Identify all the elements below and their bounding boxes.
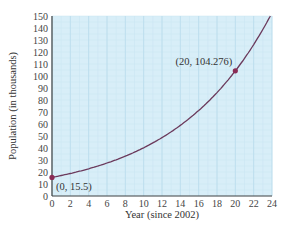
- data-point-marker: [233, 68, 238, 73]
- x-axis-label: Year (since 2002): [125, 209, 200, 221]
- x-tick-label: 20: [230, 198, 240, 209]
- y-tick-label: 140: [33, 23, 48, 34]
- population-chart: 0102030405060708090100110120130140150 02…: [0, 0, 288, 234]
- y-tick-label: 150: [33, 11, 48, 22]
- y-tick-label: 10: [38, 179, 48, 190]
- y-tick-label: 100: [33, 71, 48, 82]
- x-tick-label: 2: [68, 198, 73, 209]
- x-tick-label: 4: [86, 198, 91, 209]
- y-tick-label: 70: [38, 107, 48, 118]
- x-tick-label: 10: [139, 198, 149, 209]
- y-tick-label: 130: [33, 35, 48, 46]
- y-tick-label: 0: [43, 191, 48, 202]
- y-tick-label: 40: [38, 143, 48, 154]
- y-axis-label: Population (in thousands): [7, 52, 19, 160]
- y-tick-label: 20: [38, 167, 48, 178]
- data-point-label: (0, 15.5): [56, 181, 92, 193]
- x-tick-label: 8: [123, 198, 128, 209]
- y-tick-labels: 0102030405060708090100110120130140150: [33, 11, 48, 202]
- x-tick-label: 6: [105, 198, 110, 209]
- x-tick-label: 0: [50, 198, 55, 209]
- x-tick-label: 16: [194, 198, 204, 209]
- data-point-marker: [49, 175, 54, 180]
- x-tick-label: 18: [212, 198, 222, 209]
- y-tick-label: 80: [38, 95, 48, 106]
- x-tick-label: 24: [267, 198, 277, 209]
- y-tick-label: 50: [38, 131, 48, 142]
- x-tick-labels: 024681012141618202224: [50, 198, 278, 209]
- y-tick-label: 60: [38, 119, 48, 130]
- x-tick-label: 22: [249, 198, 259, 209]
- y-tick-label: 110: [33, 59, 48, 70]
- y-tick-label: 30: [38, 155, 48, 166]
- data-point-label: (20, 104.276): [175, 56, 232, 68]
- y-tick-label: 120: [33, 47, 48, 58]
- y-tick-label: 90: [38, 83, 48, 94]
- x-tick-label: 14: [175, 198, 185, 209]
- x-tick-label: 12: [157, 198, 167, 209]
